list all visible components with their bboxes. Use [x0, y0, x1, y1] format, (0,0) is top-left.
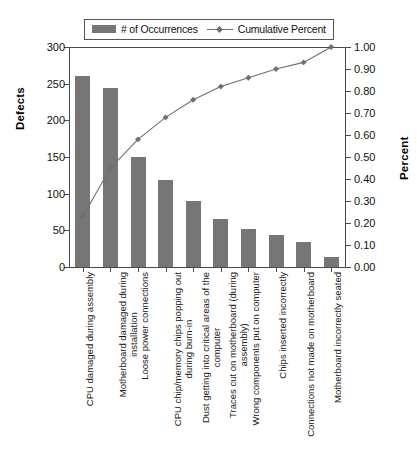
- cumulative-line-marker: [301, 59, 307, 65]
- right-tick-label: 0.70: [354, 107, 375, 119]
- left-tick-label: 50: [53, 224, 65, 236]
- right-tick-label: 1.00: [354, 41, 375, 53]
- left-tick-label: 250: [47, 78, 65, 90]
- category-label: Motherboard incorrectly seated: [333, 272, 344, 403]
- right-tick-label: 0.30: [354, 195, 375, 207]
- right-tick: [346, 179, 351, 180]
- cumulative-line-marker: [80, 213, 86, 219]
- category-label: Traces cut on motherboard (duringassembl…: [228, 272, 249, 418]
- line-marker-swatch-icon: [207, 25, 233, 34]
- left-tick-label: 0: [59, 261, 65, 273]
- bar-swatch-icon: [92, 25, 116, 33]
- right-tick-label: 0.10: [354, 239, 375, 251]
- right-tick: [346, 245, 351, 246]
- right-tick: [346, 267, 351, 268]
- left-tick-label: 150: [47, 151, 65, 163]
- pareto-chart: # of Occurrences Cumulative Percent Defe…: [0, 0, 417, 450]
- right-tick-label: 0.80: [354, 85, 375, 97]
- cumulative-line-marker: [273, 66, 279, 72]
- plot-area: [69, 47, 345, 267]
- category-label-line: Motherboard incorrectly seated: [333, 272, 344, 403]
- cumulative-line-marker: [328, 44, 334, 50]
- category-label: Wrong components put on computer: [251, 272, 262, 426]
- cumulative-line-marker: [245, 75, 251, 81]
- right-tick: [346, 157, 351, 158]
- category-label-line: CPU damaged during assembly: [85, 272, 96, 406]
- right-tick: [346, 69, 351, 70]
- chart-legend: # of Occurrences Cumulative Percent: [84, 19, 334, 40]
- right-tick: [346, 91, 351, 92]
- right-tick-label: 0.40: [354, 173, 375, 185]
- y-axis-title-left: Defects: [14, 87, 26, 130]
- category-label-line: computer: [211, 272, 222, 423]
- category-label-line: Dust getting into critical areas of the: [201, 272, 212, 423]
- category-label-line: Wrong components put on computer: [251, 272, 262, 426]
- category-label: Motherboard damaged duringinstallation: [118, 272, 139, 397]
- right-tick-label: 0.20: [354, 217, 375, 229]
- category-label-line: during burn-in: [184, 272, 195, 426]
- right-tick: [346, 113, 351, 114]
- category-label-line: Chips inserted incorrectly: [278, 272, 289, 379]
- right-tick-label: 0.90: [354, 63, 375, 75]
- left-tick-label: 300: [47, 41, 65, 53]
- right-tick-label: 0.50: [354, 151, 375, 163]
- legend-label-occurrences: # of Occurrences: [121, 23, 198, 35]
- category-axis-labels: CPU damaged during assemblyMotherboard d…: [69, 272, 346, 450]
- category-label: Chips inserted incorrectly: [278, 272, 289, 379]
- cumulative-line-marker: [190, 97, 196, 103]
- right-tick: [346, 223, 351, 224]
- cumulative-percent-line: [69, 47, 345, 267]
- right-tick: [346, 47, 351, 48]
- legend-item-cumulative: Cumulative Percent: [207, 23, 326, 35]
- category-label-line: Motherboard damaged during: [118, 272, 129, 397]
- category-label-line: installation: [128, 272, 139, 397]
- y-axis-title-right: Percent: [398, 136, 410, 180]
- left-tick-label: 100: [47, 188, 65, 200]
- legend-label-cumulative: Cumulative Percent: [238, 23, 326, 35]
- category-label: Loose power connections: [140, 272, 151, 380]
- right-tick: [346, 135, 351, 136]
- right-tick-label: 0.00: [354, 261, 375, 273]
- category-label: Dust getting into critical areas of thec…: [201, 272, 222, 423]
- category-label-line: Loose power connections: [140, 272, 151, 380]
- category-label: CPU damaged during assembly: [85, 272, 96, 406]
- legend-item-occurrences: # of Occurrences: [92, 23, 198, 35]
- right-tick: [346, 201, 351, 202]
- right-tick-label: 0.60: [354, 129, 375, 141]
- category-label: Connections not made on motherboard: [306, 272, 317, 437]
- cumulative-line-path: [83, 47, 331, 216]
- category-label-line: assembly): [239, 272, 250, 418]
- cumulative-line-marker: [218, 84, 224, 90]
- category-label-line: Connections not made on motherboard: [306, 272, 317, 437]
- category-label: CPU chip/memory chips popping outduring …: [173, 272, 194, 426]
- left-tick-label: 200: [47, 114, 65, 126]
